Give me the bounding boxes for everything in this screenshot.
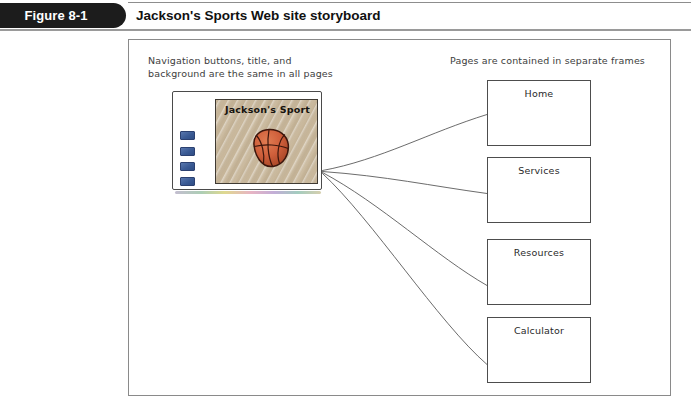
frame-box-label: Services — [488, 165, 590, 176]
figure-number-label: Figure 8-1 — [0, 3, 112, 28]
frame-box-home[interactable]: Home — [487, 80, 591, 146]
mockup-nav-button-2[interactable] — [180, 147, 195, 156]
figure-title: Jackson's Sports Web site storyboard — [136, 5, 381, 27]
mockup-nav-button-4[interactable] — [180, 177, 195, 186]
figure-header: Figure 8-1 Jackson's Sports Web site sto… — [0, 0, 691, 31]
mockup-site-title: Jackson's Sport — [216, 104, 318, 115]
mockup-nav-button-3[interactable] — [180, 162, 195, 171]
header-bottom-rule — [0, 29, 691, 31]
frame-box-label: Calculator — [488, 325, 590, 336]
frame-box-services[interactable]: Services — [487, 157, 591, 223]
mockup-accent-stripe — [175, 191, 321, 194]
header-top-rule — [128, 2, 691, 3]
mockup-nav-button-1[interactable] — [180, 131, 195, 140]
annotation-navigation-note: Navigation buttons, title, and backgroun… — [148, 54, 378, 80]
frame-box-calculator[interactable]: Calculator — [487, 317, 591, 383]
frame-box-resources[interactable]: Resources — [487, 239, 591, 305]
mockup-content-area: Jackson's Sport — [215, 99, 318, 184]
frame-box-label: Resources — [488, 247, 590, 258]
basketball-icon — [248, 128, 290, 168]
frame-box-label: Home — [488, 88, 590, 99]
annotation-frames-note: Pages are contained in separate frames — [450, 54, 680, 67]
figure-number-tab: Figure 8-1 — [0, 3, 126, 28]
